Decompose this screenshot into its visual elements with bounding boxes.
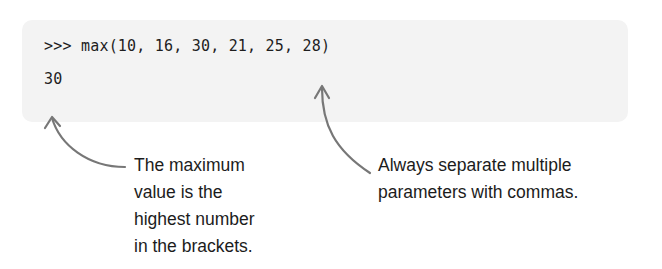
code-expression: max(10, 16, 30, 21, 25, 28) — [81, 37, 330, 55]
code-input-line: >>> max(10, 16, 30, 21, 25, 28) — [44, 37, 330, 55]
annotation-max-value: The maximum value is the highest number … — [134, 152, 284, 260]
annotation-line: highest number — [134, 206, 284, 233]
python-prompt: >>> — [44, 37, 72, 55]
left-curved-arrow-icon — [45, 117, 125, 167]
annotation-line: value is the — [134, 179, 284, 206]
annotation-line: Always separate multiple — [378, 152, 648, 179]
code-panel: >>> max(10, 16, 30, 21, 25, 28) 30 — [22, 20, 628, 122]
annotation-line: The maximum — [134, 152, 284, 179]
code-output-line: 30 — [44, 70, 62, 88]
annotation-separate-parameters: Always separate multiple parameters with… — [378, 152, 648, 206]
annotation-line: parameters with commas. — [378, 179, 648, 206]
annotation-line: in the brackets. — [134, 233, 284, 260]
